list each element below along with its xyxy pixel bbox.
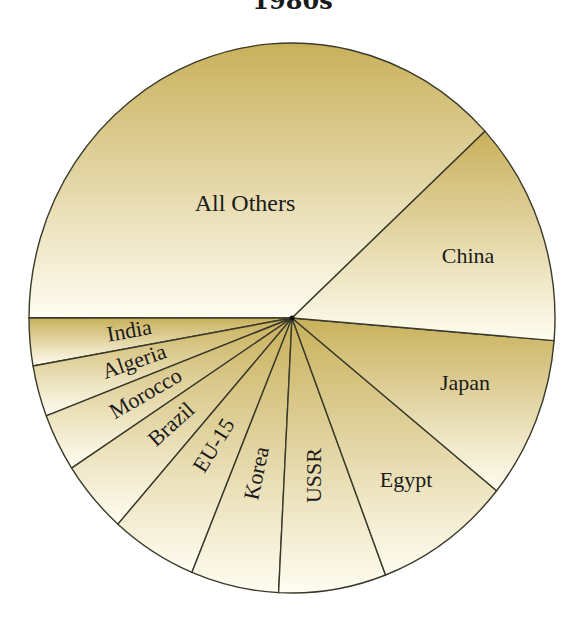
slice-label-all-others: All Others bbox=[195, 190, 296, 216]
pie-center-point bbox=[290, 316, 295, 321]
pie-chart: All OthersIndiaAlgeriaMoroccoBrazilEU-15… bbox=[0, 0, 585, 628]
slice-label-egypt: Egypt bbox=[380, 467, 433, 492]
slice-label-ussr: USSR bbox=[301, 448, 326, 503]
slice-label-japan: Japan bbox=[440, 370, 490, 395]
slice-label-china: China bbox=[442, 243, 495, 268]
